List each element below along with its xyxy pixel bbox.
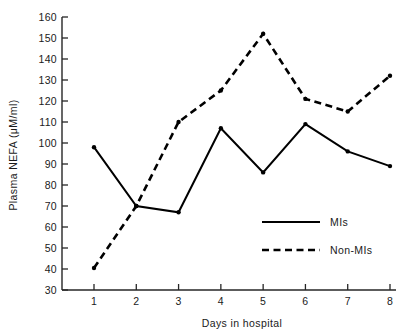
x-axis-ticks: 12345678 — [91, 284, 393, 307]
x-tick-label: 5 — [260, 295, 266, 307]
data-point — [176, 120, 180, 124]
chart-legend: MIsNon-MIs — [262, 216, 372, 256]
data-series-layer — [92, 32, 392, 271]
y-tick-label: 160 — [39, 11, 57, 23]
data-point — [219, 126, 223, 130]
x-tick-label: 3 — [176, 295, 182, 307]
data-point — [388, 74, 392, 78]
x-axis-title: Days in hospital — [202, 317, 283, 329]
data-point — [261, 170, 265, 174]
data-point — [303, 97, 307, 101]
data-point — [134, 204, 138, 208]
legend-label-mis: MIs — [330, 216, 348, 228]
y-tick-label: 80 — [45, 179, 57, 191]
y-tick-label: 150 — [39, 32, 57, 44]
y-tick-label: 30 — [45, 284, 57, 296]
x-tick-label: 8 — [387, 295, 393, 307]
data-point — [92, 145, 96, 149]
y-tick-label: 40 — [45, 263, 57, 275]
legend-label-non-mis: Non-MIs — [330, 244, 372, 256]
data-point — [346, 149, 350, 153]
data-point — [261, 32, 265, 36]
y-tick-label: 110 — [39, 116, 57, 128]
y-tick-label: 130 — [39, 74, 57, 86]
x-tick-label: 2 — [133, 295, 139, 307]
data-point — [219, 88, 223, 92]
y-tick-label: 140 — [39, 53, 57, 65]
y-tick-label: 60 — [45, 221, 57, 233]
data-point — [388, 164, 392, 168]
x-tick-label: 7 — [345, 295, 351, 307]
line-chart: Plasma NEFA (μM/ml) Days in hospital 304… — [0, 0, 407, 335]
chart-figure: Plasma NEFA (μM/ml) Days in hospital 304… — [0, 0, 407, 335]
y-tick-label: 120 — [39, 95, 57, 107]
data-point — [92, 266, 96, 270]
y-axis-ticks: 30405060708090100110120130140150160 — [39, 11, 68, 296]
data-point — [176, 210, 180, 214]
data-point — [303, 122, 307, 126]
y-tick-label: 70 — [45, 200, 57, 212]
x-tick-label: 6 — [302, 295, 308, 307]
x-tick-label: 4 — [218, 295, 224, 307]
y-tick-label: 50 — [45, 242, 57, 254]
y-tick-label: 90 — [45, 158, 57, 170]
y-tick-label: 100 — [39, 137, 57, 149]
y-axis-title: Plasma NEFA (μM/ml) — [7, 99, 19, 210]
data-point — [346, 109, 350, 113]
x-tick-label: 1 — [91, 295, 97, 307]
